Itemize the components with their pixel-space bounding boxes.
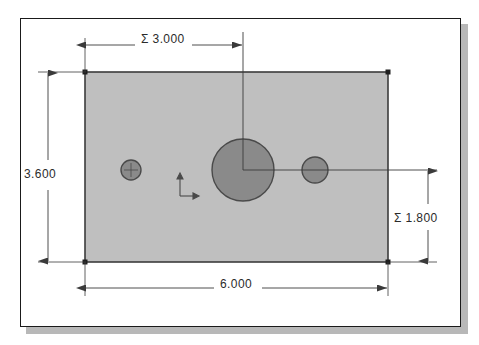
dimension-label-top[interactable]: Σ 3.000 <box>139 32 187 46</box>
dimension-label-bottom[interactable]: 6.000 <box>218 277 254 291</box>
drawing-view: Σ 3.000 3.600 Σ 1.800 6.000 <box>0 0 479 345</box>
top-right-vertex[interactable] <box>386 70 391 75</box>
drawing-canvas[interactable] <box>0 0 479 345</box>
dimension-label-right[interactable]: Σ 1.800 <box>392 211 440 225</box>
dimension-label-left[interactable]: 3.600 <box>22 167 58 181</box>
